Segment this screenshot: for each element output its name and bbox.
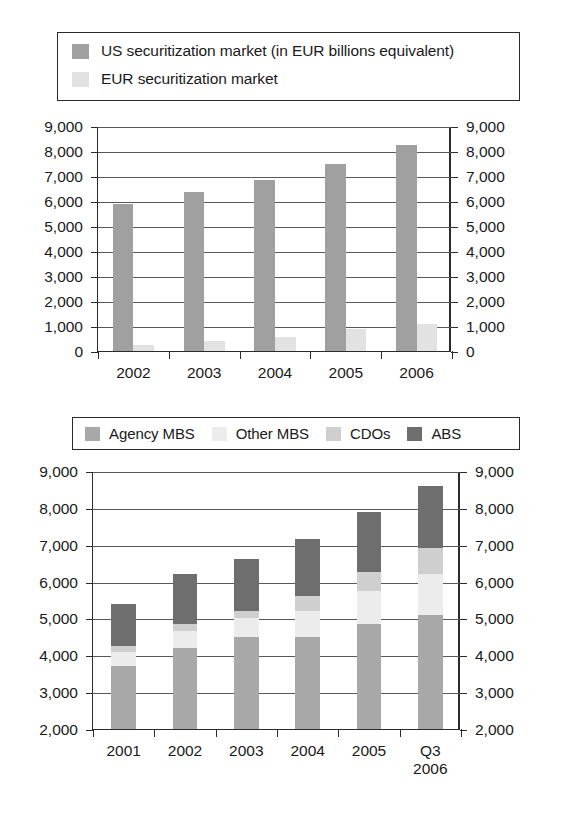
y-axis-label-right: 0 — [466, 343, 475, 361]
bar-segment — [111, 604, 136, 646]
legend-entry: Agency MBS — [85, 425, 195, 442]
y-axis-tick — [460, 693, 467, 694]
legend-item-label: Agency MBS — [109, 425, 195, 442]
gridline — [93, 509, 460, 510]
bar — [254, 180, 275, 351]
plot-area: 2,0002,0003,0003,0004,0004,0005,0005,000… — [92, 472, 460, 730]
bar-segment — [295, 596, 320, 611]
y-axis-label-left: 4,000 — [39, 647, 78, 665]
y-axis-label-left: 8,000 — [39, 500, 78, 518]
x-axis-tick — [461, 729, 462, 737]
gridline — [98, 127, 451, 128]
stacked-bar — [418, 471, 443, 729]
y-axis-label-left: 0 — [74, 343, 83, 361]
y-axis-label-right: 7,000 — [475, 537, 514, 555]
x-axis-label-line: 2001 — [106, 742, 140, 760]
y-axis-label-left: 3,000 — [39, 684, 78, 702]
x-axis-label: 2004 — [258, 364, 292, 382]
x-axis-label: 2002 — [168, 742, 202, 760]
x-axis-label: 2005 — [352, 742, 386, 760]
y-axis-label-right: 6,000 — [466, 193, 505, 211]
bar-segment — [173, 648, 198, 729]
y-axis-label-right: 2,000 — [475, 721, 514, 739]
y-axis-label-left: 8,000 — [44, 143, 83, 161]
chart-us-vs-eur-securitization: 001,0001,0002,0002,0003,0003,0004,0004,0… — [0, 110, 567, 400]
legend-item-label: EUR securitization market — [101, 70, 278, 88]
y-axis-tick — [86, 656, 93, 657]
legend-swatch-icon — [212, 427, 227, 441]
y-axis-label-right: 8,000 — [466, 143, 505, 161]
legend-swatch-icon — [72, 72, 89, 87]
stacked-bar — [173, 471, 198, 729]
bar-segment — [295, 611, 320, 637]
legend-swatch-icon — [326, 427, 341, 441]
x-axis-label-line: 2003 — [229, 742, 263, 760]
bar-segment — [111, 666, 136, 729]
y-axis-tick — [91, 177, 98, 178]
x-axis-tick — [216, 729, 217, 737]
y-axis-label-right: 6,000 — [475, 574, 514, 592]
y-axis-label-left: 2,000 — [44, 293, 83, 311]
bar-segment — [418, 615, 443, 729]
bar-segment — [357, 572, 382, 590]
y-axis-label-left: 5,000 — [44, 218, 83, 236]
y-axis-tick — [91, 352, 98, 353]
y-axis-tick — [86, 583, 93, 584]
y-axis-label-right: 3,000 — [475, 684, 514, 702]
y-axis-tick — [451, 202, 458, 203]
y-axis-label-left: 7,000 — [44, 168, 83, 186]
stacked-bar — [234, 471, 259, 729]
y-axis-tick — [91, 302, 98, 303]
y-axis-tick — [451, 177, 458, 178]
x-axis-tick — [452, 351, 453, 359]
y-axis-label-left: 1,000 — [44, 318, 83, 336]
y-axis-tick — [460, 472, 467, 473]
legend-item-label: CDOs — [350, 425, 390, 442]
bar — [417, 324, 438, 352]
y-axis-label-left: 3,000 — [44, 268, 83, 286]
x-axis-label: 2001 — [106, 742, 140, 760]
legend-item-label: Other MBS — [236, 425, 309, 442]
x-axis-label: 2003 — [187, 364, 221, 382]
bar-segment — [357, 591, 382, 624]
x-axis-label: 2006 — [399, 364, 433, 382]
y-axis-label-left: 6,000 — [39, 574, 78, 592]
y-axis-label-left: 6,000 — [44, 193, 83, 211]
y-axis-tick — [460, 656, 467, 657]
y-axis-tick — [451, 327, 458, 328]
bar — [275, 337, 296, 351]
y-axis-label-left: 2,000 — [39, 721, 78, 739]
x-axis-label-line: 2006 — [399, 364, 433, 382]
y-axis-tick — [460, 509, 467, 510]
y-axis-tick — [451, 277, 458, 278]
y-axis-label-left: 7,000 — [39, 537, 78, 555]
x-axis-tick — [154, 729, 155, 737]
y-axis-tick — [460, 583, 467, 584]
bar-segment — [418, 548, 443, 574]
y-axis-tick — [91, 227, 98, 228]
x-axis-label-line: 2003 — [187, 364, 221, 382]
y-axis-label-left: 4,000 — [44, 243, 83, 261]
y-axis-tick — [86, 619, 93, 620]
x-axis-tick — [93, 729, 94, 737]
x-axis-label: Q32006 — [413, 742, 447, 778]
y-axis-tick — [460, 546, 467, 547]
bar-segment — [418, 486, 443, 549]
x-axis-tick — [310, 351, 311, 359]
y-axis-tick — [451, 252, 458, 253]
legend-entry: Other MBS — [212, 425, 309, 442]
legend-item-label: US securitization market (in EUR billion… — [101, 42, 454, 60]
bar-segment — [173, 574, 198, 624]
stacked-bar — [295, 471, 320, 729]
y-axis-tick — [451, 127, 458, 128]
y-axis-label-left: 9,000 — [44, 118, 83, 136]
bar — [346, 329, 367, 352]
stacked-bar — [111, 471, 136, 729]
y-axis-label-left: 9,000 — [39, 463, 78, 481]
x-axis-label-line: 2004 — [290, 742, 324, 760]
y-axis-tick — [91, 252, 98, 253]
x-axis-label-line: 2002 — [116, 364, 150, 382]
legend-entry: ABS — [407, 425, 461, 442]
y-axis-label-right: 4,000 — [466, 243, 505, 261]
y-axis-tick — [86, 509, 93, 510]
